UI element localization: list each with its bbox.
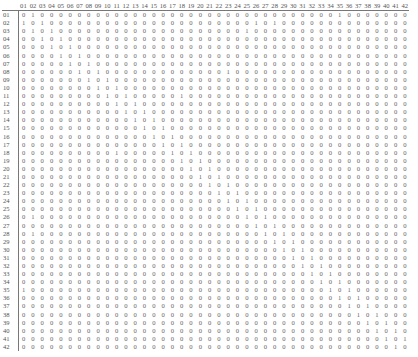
matrix-cell: 0 (28, 43, 37, 51)
matrix-cell: 0 (391, 92, 400, 100)
matrix-cell: 0 (93, 124, 102, 132)
matrix-cell: 0 (391, 11, 400, 20)
matrix-cell: 0 (168, 238, 177, 246)
matrix-cell: 0 (103, 302, 112, 310)
matrix-cell: 0 (75, 294, 84, 302)
matrix-cell: 0 (382, 52, 391, 60)
matrix-cell: 0 (84, 302, 93, 310)
matrix-cell: 0 (103, 327, 112, 335)
matrix-cell: 0 (344, 141, 353, 149)
matrix-cell: 0 (289, 197, 298, 205)
matrix-cell: 0 (65, 165, 74, 173)
matrix-cell: 0 (112, 246, 121, 254)
matrix-cell: 0 (168, 116, 177, 124)
matrix-cell: 0 (363, 100, 372, 108)
matrix-cell: 0 (168, 197, 177, 205)
matrix-cell: 0 (400, 27, 409, 35)
matrix-cell: 0 (326, 52, 335, 60)
matrix-cell: 0 (344, 52, 353, 60)
matrix-cell: 0 (140, 173, 149, 181)
matrix-cell: 0 (149, 52, 158, 60)
column-label: 01 (19, 2, 29, 11)
matrix-cell: 0 (149, 60, 158, 68)
matrix-cell: 0 (270, 254, 279, 262)
matrix-cell: 0 (335, 181, 344, 189)
matrix-cell: 1 (47, 43, 56, 51)
matrix-cell: 0 (112, 205, 121, 213)
matrix-cell: 0 (28, 52, 37, 60)
matrix-cell: 0 (28, 68, 37, 76)
column-label: 06 (65, 2, 74, 11)
matrix-cell: 0 (289, 165, 298, 173)
matrix-cell: 0 (326, 197, 335, 205)
matrix-cell: 0 (214, 286, 223, 294)
matrix-cell: 0 (270, 205, 279, 213)
matrix-cell: 0 (372, 92, 381, 100)
matrix-cell: 0 (307, 68, 316, 76)
matrix-cell: 0 (158, 302, 167, 310)
matrix-cell: 0 (372, 124, 381, 132)
matrix-cell: 0 (65, 108, 74, 116)
matrix-cell: 0 (38, 335, 47, 343)
matrix-cell: 0 (335, 262, 344, 270)
matrix-cell: 0 (56, 197, 65, 205)
matrix-cell: 0 (372, 189, 381, 197)
matrix-cell: 0 (38, 294, 47, 302)
matrix-cell: 0 (307, 246, 316, 254)
row-label: 09 (2, 76, 19, 84)
matrix-cell: 0 (261, 27, 270, 35)
matrix-cell: 0 (372, 343, 381, 351)
matrix-cell: 1 (196, 157, 205, 165)
matrix-cell: 0 (233, 311, 242, 319)
matrix-cell: 0 (298, 60, 307, 68)
matrix-cell: 0 (391, 222, 400, 230)
matrix-cell: 1 (261, 213, 270, 221)
matrix-cell: 0 (233, 100, 242, 108)
column-label: 19 (186, 2, 195, 11)
matrix-cell: 0 (56, 124, 65, 132)
matrix-cell: 0 (400, 76, 409, 84)
matrix-cell: 0 (382, 246, 391, 254)
matrix-cell: 0 (196, 327, 205, 335)
matrix-cell: 0 (56, 141, 65, 149)
row-label: 16 (2, 133, 19, 141)
matrix-cell: 0 (158, 52, 167, 60)
matrix-cell: 0 (363, 108, 372, 116)
matrix-cell: 0 (84, 254, 93, 262)
matrix-cell: 0 (112, 124, 121, 132)
matrix-cell: 0 (47, 35, 56, 43)
matrix-cell: 0 (317, 238, 326, 246)
matrix-cell: 0 (103, 197, 112, 205)
matrix-cell: 0 (242, 230, 251, 238)
matrix-cell: 0 (224, 335, 233, 343)
matrix-cell: 0 (270, 60, 279, 68)
matrix-cell: 0 (251, 189, 260, 197)
matrix-cell: 0 (242, 335, 251, 343)
matrix-cell: 0 (391, 43, 400, 51)
matrix-cell: 0 (56, 238, 65, 246)
matrix-cell: 0 (242, 116, 251, 124)
matrix-cell: 0 (93, 246, 102, 254)
table-row: 3600000000000000000000000000000000001010… (2, 294, 409, 302)
matrix-cell: 0 (261, 181, 270, 189)
column-label: 10 (103, 2, 112, 11)
matrix-cell: 0 (391, 35, 400, 43)
matrix-cell: 0 (186, 286, 195, 294)
table-row: 0600001010000000000000000000000000000000… (2, 52, 409, 60)
matrix-cell: 0 (196, 60, 205, 68)
matrix-cell: 0 (28, 133, 37, 141)
matrix-cell: 0 (298, 302, 307, 310)
matrix-cell: 0 (93, 52, 102, 60)
table-row: 3900000000000000000000000000000000000001… (2, 319, 409, 327)
matrix-cell: 0 (363, 124, 372, 132)
matrix-cell: 0 (168, 286, 177, 294)
matrix-cell: 0 (224, 205, 233, 213)
matrix-cell: 0 (205, 133, 214, 141)
matrix-cell: 0 (279, 197, 288, 205)
matrix-cell: 0 (205, 27, 214, 35)
matrix-cell: 0 (382, 76, 391, 84)
matrix-cell: 0 (363, 181, 372, 189)
matrix-cell: 0 (65, 19, 74, 27)
matrix-cell: 0 (149, 189, 158, 197)
matrix-cell: 0 (205, 238, 214, 246)
